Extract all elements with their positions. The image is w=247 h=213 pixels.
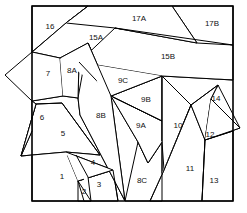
edge-7-right	[32, 52, 63, 101]
diagram-root: 12345678A8B8C9A9B9C101112131415A15B1617A…	[0, 0, 247, 213]
region-partition-diagram: 12345678A8B8C9A9B9C101112131415A15B1617A…	[0, 0, 247, 213]
region-13[interactable]	[202, 131, 233, 201]
